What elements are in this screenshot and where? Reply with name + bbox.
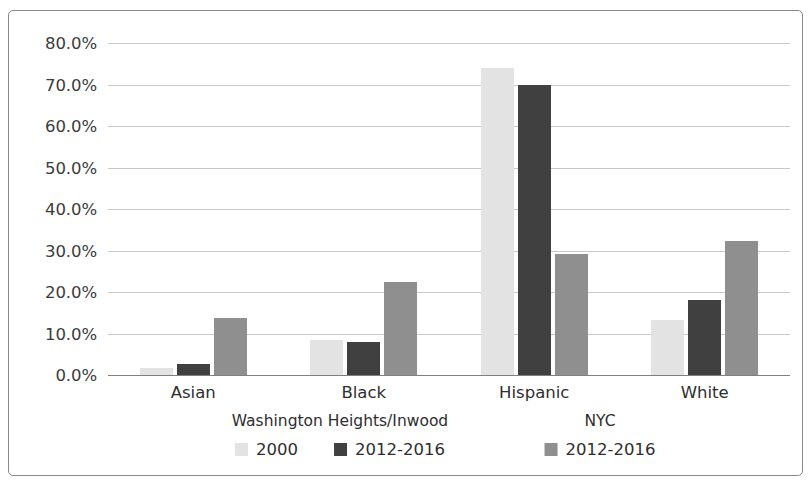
gridline [108,85,790,86]
gridline [108,251,790,252]
bar [140,368,173,375]
chart-legend: Washington Heights/Inwood20002012-2016NY… [0,412,811,474]
y-axis-tick-label: 40.0% [45,200,97,219]
legend-group-items: 2012-2016 [545,440,656,459]
y-axis-tick-label: 30.0% [45,241,97,260]
y-axis-tick-label: 20.0% [45,283,97,302]
gridline [108,126,790,127]
bar [481,68,514,375]
legend-group-title: NYC [584,412,615,430]
y-axis-tick-label: 10.0% [45,324,97,343]
bar-chart: 0.0%10.0%20.0%30.0%40.0%50.0%60.0%70.0%8… [0,0,811,485]
legend-swatch-icon [545,443,558,456]
plot-area: 0.0%10.0%20.0%30.0%40.0%50.0%60.0%70.0%8… [108,43,790,375]
category-label-black: Black [341,383,386,402]
category-label-white: White [681,383,729,402]
legend-swatch-icon [235,443,248,456]
legend-group-title: Washington Heights/Inwood [232,412,448,430]
gridline [108,292,790,293]
legend-swatch-icon [334,443,347,456]
bar [177,364,210,375]
bar [725,241,758,375]
bar [518,85,551,376]
y-axis-tick-label: 60.0% [45,117,97,136]
gridline [108,43,790,44]
category-label-hispanic: Hispanic [499,383,569,402]
legend-label: 2012-2016 [355,440,445,459]
legend-item[interactable]: 2012-2016 [334,440,445,459]
category-label-asian: Asian [171,383,216,402]
bar [688,300,721,375]
legend-label: 2000 [256,440,298,459]
y-axis-tick-label: 0.0% [55,366,97,385]
bar [214,318,247,375]
legend-label: 2012-2016 [566,440,656,459]
legend-item[interactable]: 2000 [235,440,298,459]
gridline [108,168,790,169]
bar [555,254,588,375]
legend-group-items: 20002012-2016 [235,440,445,459]
gridline [108,209,790,210]
y-axis-tick-label: 80.0% [45,34,97,53]
bar [310,340,343,375]
legend-item[interactable]: 2012-2016 [545,440,656,459]
bar [384,282,417,375]
y-axis-tick-label: 50.0% [45,158,97,177]
bar [651,320,684,375]
bar [347,342,380,375]
y-axis-tick-label: 70.0% [45,75,97,94]
